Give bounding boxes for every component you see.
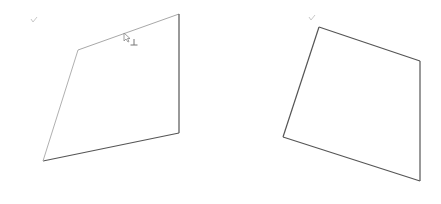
- right-quad-left-edge[interactable]: [283, 27, 319, 137]
- right-quad-bottom-edge[interactable]: [283, 137, 420, 181]
- left-quad-top-edge[interactable]: [78, 14, 179, 50]
- right-quadrilateral[interactable]: [283, 15, 420, 181]
- cursor-icon: [124, 33, 130, 42]
- right-quad-top-edge[interactable]: [319, 27, 420, 61]
- check-mark-icon: [309, 15, 315, 20]
- left-quadrilateral[interactable]: [31, 14, 179, 161]
- left-quad-left-edge[interactable]: [43, 50, 78, 161]
- left-quad-bottom-edge[interactable]: [43, 133, 179, 161]
- check-mark-icon: [31, 17, 37, 22]
- drawing-canvas[interactable]: [0, 0, 441, 204]
- perpendicular-marker-icon: [131, 39, 138, 45]
